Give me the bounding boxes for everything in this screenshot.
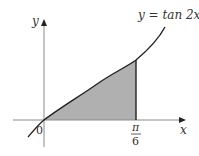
x-axis-label: x [180,123,187,137]
bound-label-denominator: 6 [132,135,139,148]
bound-label-numerator: π [131,121,140,134]
tan2x-area-diagram: y = tan 2x y x 0 π 6 [0,0,199,156]
y-axis-arrow-icon [41,19,47,26]
origin-label: 0 [36,124,43,137]
y-axis-label: y [31,14,39,28]
curve-label: y = tan 2x [137,8,199,22]
